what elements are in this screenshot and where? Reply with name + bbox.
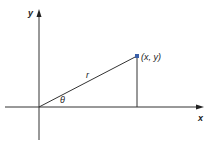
angle-label: θ xyxy=(60,95,65,105)
y-axis-arrow-icon xyxy=(37,9,42,17)
polar-coordinate-diagram: (x, y) r θ y x xyxy=(0,0,204,146)
diagram-canvas: (x, y) r θ y x xyxy=(0,0,204,146)
point-label: (x, y) xyxy=(141,52,161,62)
x-axis-label: x xyxy=(197,113,204,123)
radius-line xyxy=(39,56,137,107)
y-axis-label: y xyxy=(27,8,34,18)
x-axis-arrow-icon xyxy=(196,105,204,110)
point-marker xyxy=(135,54,139,58)
radius-label: r xyxy=(86,70,90,80)
